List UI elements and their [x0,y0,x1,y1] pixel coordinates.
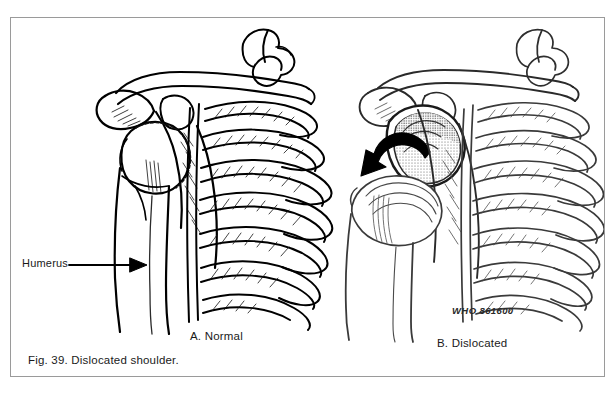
panel-a-label: A. Normal [190,330,243,342]
figure-border [10,17,605,377]
annotation-label-humerus: Humerus [22,257,68,269]
panel-b-label: B. Dislocated [437,337,507,349]
figure-root: Humerus A. Normal B. Dislocated WHO 8616… [0,0,616,396]
who-reference-code: WHO 861600 [452,305,514,316]
figure-caption: Fig. 39. Dislocated shoulder. [28,354,179,366]
